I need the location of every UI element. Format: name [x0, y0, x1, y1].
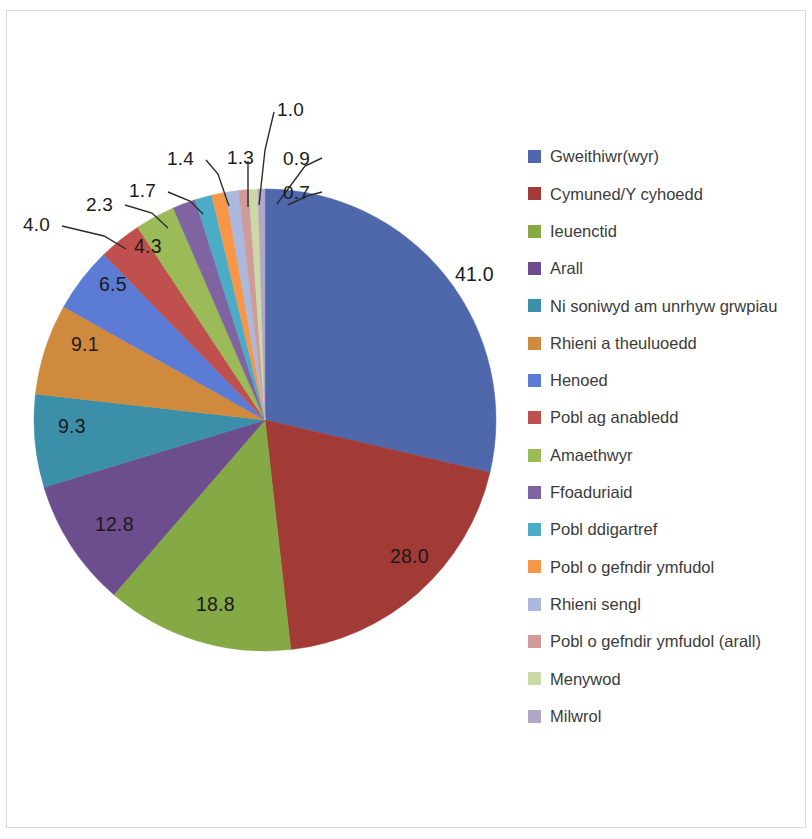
pie-data-label: 9.3: [58, 415, 86, 438]
legend-item[interactable]: Rhieni a theuluoedd: [528, 324, 804, 361]
legend-item-label: Pobl ddigartref: [550, 521, 657, 538]
chart-legend: Gweithiwr(wyr)Cymuned/Y cyhoeddIeuenctid…: [528, 138, 804, 735]
pie-data-label: 4.0: [23, 214, 50, 236]
legend-swatch-icon: [528, 672, 541, 685]
legend-item[interactable]: Pobl o gefndir ymfudol: [528, 548, 804, 585]
legend-swatch-icon: [528, 299, 541, 312]
pie-data-label: 6.5: [99, 273, 127, 296]
legend-item-label: Rhieni a theuluoedd: [550, 335, 697, 352]
legend-swatch-icon: [528, 374, 541, 387]
legend-swatch-icon: [528, 710, 541, 723]
legend-swatch-icon: [528, 262, 541, 275]
pie-data-label: 1.3: [227, 147, 254, 169]
pie-chart-area: 41.028.018.812.89.39.16.54.34.02.31.71.4…: [0, 0, 520, 839]
legend-item-label: Milwrol: [550, 708, 601, 725]
legend-item-label: Gweithiwr(wyr): [550, 148, 659, 165]
legend-swatch-icon: [528, 449, 541, 462]
pie-data-label: 41.0: [455, 263, 494, 286]
pie-data-label: 12.8: [95, 513, 134, 536]
legend-item-label: Pobl ag anabledd: [550, 409, 678, 426]
pie-data-label: 1.7: [129, 180, 156, 202]
pie-data-label: 1.4: [167, 148, 194, 170]
pie-data-label: 2.3: [86, 194, 113, 216]
legend-item[interactable]: Pobl ag anabledd: [528, 399, 804, 436]
legend-item[interactable]: Pobl o gefndir ymfudol (arall): [528, 623, 804, 660]
legend-item[interactable]: Ieuenctid: [528, 213, 804, 250]
legend-swatch-icon: [528, 337, 541, 350]
pie-data-label: 9.1: [71, 333, 99, 356]
legend-item-label: Cymuned/Y cyhoedd: [550, 186, 703, 203]
pie-slices: [34, 189, 496, 651]
legend-item-label: Amaethwyr: [550, 447, 633, 464]
legend-swatch-icon: [528, 411, 541, 424]
legend-swatch-icon: [528, 560, 541, 573]
legend-item[interactable]: Gweithiwr(wyr): [528, 138, 804, 175]
legend-item-label: Menywod: [550, 671, 621, 688]
legend-item[interactable]: Cymuned/Y cyhoedd: [528, 175, 804, 212]
pie-data-label: 28.0: [390, 545, 429, 568]
legend-item-label: Pobl o gefndir ymfudol (arall): [550, 633, 761, 650]
legend-item-label: Ieuenctid: [550, 223, 617, 240]
legend-swatch-icon: [528, 150, 541, 163]
legend-item-label: Pobl o gefndir ymfudol: [550, 559, 714, 576]
legend-item-label: Rhieni sengl: [550, 596, 641, 613]
legend-swatch-icon: [528, 523, 541, 536]
legend-swatch-icon: [528, 635, 541, 648]
legend-item[interactable]: Henoed: [528, 362, 804, 399]
legend-item-label: Henoed: [550, 372, 608, 389]
legend-item[interactable]: Pobl ddigartref: [528, 511, 804, 548]
legend-item-label: Ni soniwyd am unrhyw grwpiau: [550, 298, 777, 315]
legend-swatch-icon: [528, 486, 541, 499]
pie-data-label: 4.3: [134, 235, 162, 258]
legend-item-label: Arall: [550, 260, 583, 277]
legend-item[interactable]: Ffoaduriaid: [528, 474, 804, 511]
pie-data-label: 0.9: [283, 148, 310, 170]
pie-data-label: 18.8: [196, 593, 235, 616]
pie-data-label: 0.7: [283, 182, 310, 204]
legend-item[interactable]: Amaethwyr: [528, 436, 804, 473]
pie-data-label: 1.0: [277, 99, 304, 121]
legend-item-label: Ffoaduriaid: [550, 484, 633, 501]
legend-item[interactable]: Menywod: [528, 660, 804, 697]
legend-swatch-icon: [528, 598, 541, 611]
legend-item[interactable]: Rhieni sengl: [528, 586, 804, 623]
legend-swatch-icon: [528, 187, 541, 200]
legend-item[interactable]: Milwrol: [528, 697, 804, 734]
legend-item[interactable]: Ni soniwyd am unrhyw grwpiau: [528, 287, 804, 324]
chart-container: 41.028.018.812.89.39.16.54.34.02.31.71.4…: [0, 0, 812, 839]
legend-swatch-icon: [528, 225, 541, 238]
legend-item[interactable]: Arall: [528, 250, 804, 287]
